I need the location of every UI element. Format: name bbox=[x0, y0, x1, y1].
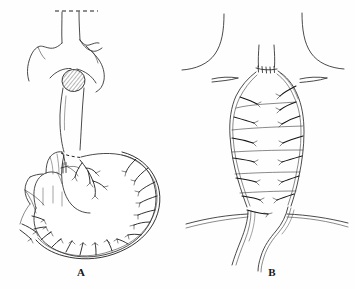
esophagus-body bbox=[60, 88, 84, 152]
conduit-pedicle-below-diaphragm bbox=[232, 207, 294, 272]
hatched-diaphragmatic-hiatus bbox=[61, 68, 86, 92]
conduit-branch-twigs bbox=[253, 94, 283, 217]
resected-esophagus-stump bbox=[62, 12, 80, 43]
diaphragm-line bbox=[186, 214, 348, 228]
anatomical-illustration: A bbox=[0, 0, 355, 289]
figure-root: A bbox=[0, 0, 355, 289]
neck-outline-left bbox=[182, 14, 224, 70]
panel-b-group: B bbox=[182, 13, 348, 278]
cervical-esophagus bbox=[258, 45, 274, 67]
neck-outline-right bbox=[302, 13, 344, 69]
clavicle-left bbox=[212, 77, 238, 82]
panel-a-group: A bbox=[20, 11, 160, 278]
panel-a-label: A bbox=[77, 266, 85, 278]
conduit-vascular-branches bbox=[232, 86, 303, 200]
pedicle-vessel-at-hiatus bbox=[247, 210, 268, 214]
clavicle-right bbox=[300, 77, 327, 82]
anastomosis-suture-line bbox=[256, 66, 277, 73]
panel-b-label: B bbox=[268, 266, 276, 278]
